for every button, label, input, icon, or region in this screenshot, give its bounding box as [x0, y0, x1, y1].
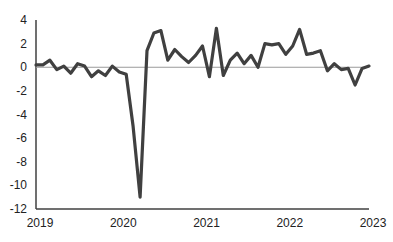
y-tick-label: -2 [16, 84, 27, 98]
y-tick-label: -10 [10, 178, 28, 192]
y-axis: 420-2-4-6-8-10-12 [10, 13, 36, 216]
x-axis: 20192020202120222023 [27, 209, 387, 230]
y-tick-label: 0 [20, 60, 27, 74]
data-series-line [36, 28, 369, 197]
x-tick-label: 2019 [27, 216, 54, 230]
x-tick-label: 2023 [360, 216, 387, 230]
y-tick-label: -4 [16, 108, 27, 122]
y-tick-label: -8 [16, 155, 27, 169]
y-tick-label: 2 [20, 37, 27, 51]
y-tick-label: -6 [16, 131, 27, 145]
x-tick-label: 2021 [193, 216, 220, 230]
y-tick-label: 4 [20, 13, 27, 27]
x-tick-label: 2020 [110, 216, 137, 230]
y-tick-label: -12 [10, 202, 28, 216]
x-tick-label: 2022 [276, 216, 303, 230]
line-chart: 420-2-4-6-8-10-12 20192020202120222023 [0, 0, 393, 242]
